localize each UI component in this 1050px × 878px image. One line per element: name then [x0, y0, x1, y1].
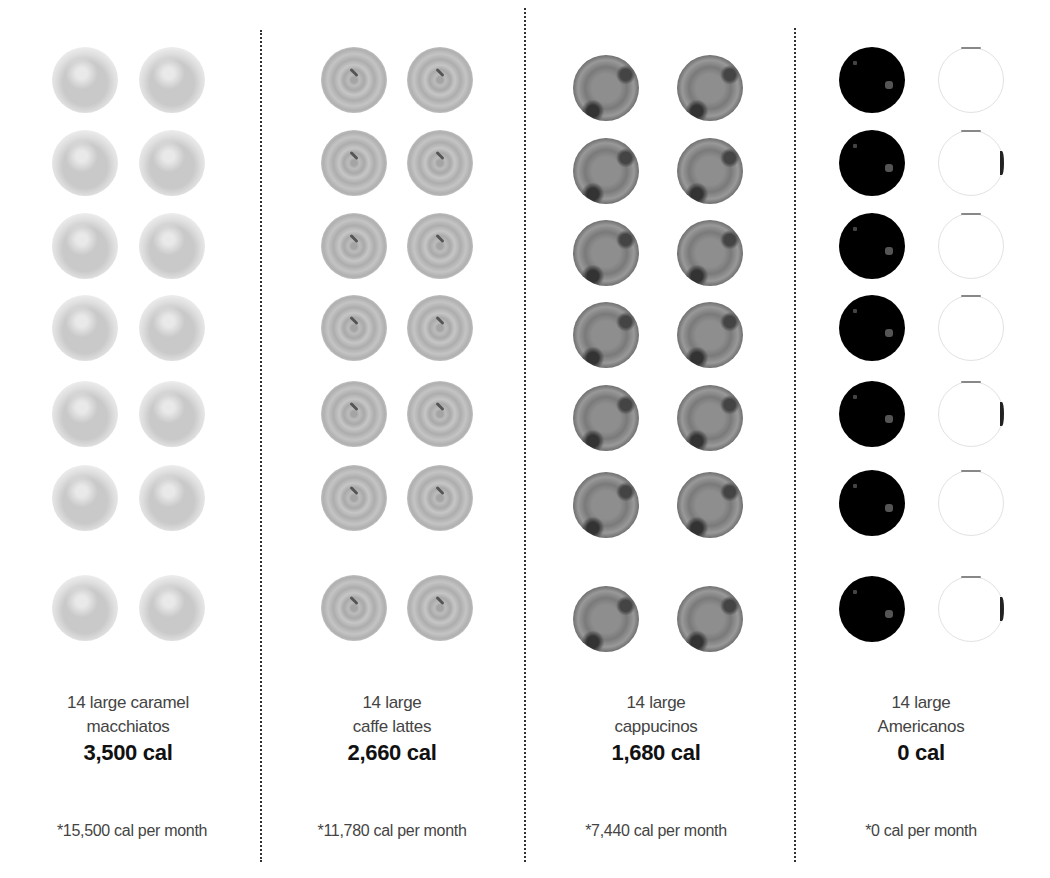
- coffee-cup-icon: [407, 47, 473, 113]
- column-divider-1: [260, 30, 262, 862]
- coffee-cup-icon: [52, 213, 118, 279]
- coffee-cup-icon: [677, 302, 743, 368]
- monthly-calories: *7,440 cal per month: [536, 822, 776, 840]
- coffee-cup-icon: [321, 465, 387, 531]
- empty-cup-icon: [938, 213, 1004, 279]
- drink-label: 14 large caramel macchiatos 3,500 cal: [8, 691, 248, 767]
- coffee-cup-icon: [52, 465, 118, 531]
- coffee-cup-icon: [139, 575, 205, 641]
- coffee-cup-icon: [139, 213, 205, 279]
- coffee-cup-icon: [677, 385, 743, 451]
- coffee-cup-icon: [321, 575, 387, 641]
- coffee-cup-icon: [839, 47, 905, 113]
- calorie-total: 2,660 cal: [272, 739, 512, 767]
- drink-name-text: Americanos: [801, 715, 1041, 739]
- monthly-calories: *11,780 cal per month: [272, 822, 512, 840]
- coffee-cup-icon: [839, 213, 905, 279]
- drink-name-text: caffe lattes: [272, 715, 512, 739]
- drink-label: 14 large Americanos 0 cal: [801, 691, 1041, 767]
- monthly-calories: *0 cal per month: [801, 822, 1041, 840]
- drink-label: 14 large caffe lattes 2,660 cal: [272, 691, 512, 767]
- coffee-cup-icon: [139, 381, 205, 447]
- drink-name-text: cappucinos: [536, 715, 776, 739]
- coffee-cup-icon: [407, 213, 473, 279]
- empty-cup-icon: [938, 130, 1004, 196]
- drink-count-text: 14 large: [536, 691, 776, 715]
- calorie-total: 1,680 cal: [536, 739, 776, 767]
- coffee-cup-icon: [573, 138, 639, 204]
- coffee-cup-icon: [573, 220, 639, 286]
- coffee-cup-icon: [52, 381, 118, 447]
- empty-cup-icon: [938, 381, 1004, 447]
- coffee-cup-icon: [321, 130, 387, 196]
- coffee-cup-icon: [407, 575, 473, 641]
- coffee-cup-icon: [139, 130, 205, 196]
- coffee-cup-icon: [573, 302, 639, 368]
- coffee-cup-icon: [573, 55, 639, 121]
- coffee-cup-icon: [573, 385, 639, 451]
- coffee-cup-icon: [52, 295, 118, 361]
- empty-cup-icon: [938, 295, 1004, 361]
- calorie-total: 3,500 cal: [8, 739, 248, 767]
- coffee-cup-icon: [52, 130, 118, 196]
- coffee-cup-icon: [677, 472, 743, 538]
- coffee-cup-icon: [139, 47, 205, 113]
- coffee-cup-icon: [407, 295, 473, 361]
- drink-count-text: 14 large: [272, 691, 512, 715]
- coffee-cup-icon: [839, 576, 905, 642]
- calorie-total: 0 cal: [801, 739, 1041, 767]
- column-divider-3: [794, 28, 796, 862]
- coffee-cup-icon: [839, 381, 905, 447]
- coffee-cup-icon: [52, 47, 118, 113]
- coffee-cup-icon: [407, 465, 473, 531]
- coffee-cup-icon: [139, 465, 205, 531]
- coffee-cup-icon: [839, 470, 905, 536]
- coffee-cup-icon: [52, 575, 118, 641]
- coffee-cup-icon: [573, 586, 639, 652]
- drink-count-text: 14 large: [801, 691, 1041, 715]
- drink-label: 14 large cappucinos 1,680 cal: [536, 691, 776, 767]
- empty-cup-icon: [938, 470, 1004, 536]
- coffee-cup-icon: [407, 130, 473, 196]
- coffee-cup-icon: [321, 47, 387, 113]
- empty-cup-icon: [938, 576, 1004, 642]
- coffee-cup-icon: [677, 138, 743, 204]
- coffee-cup-icon: [839, 130, 905, 196]
- drink-count-text: 14 large caramel: [8, 691, 248, 715]
- coffee-cup-icon: [573, 472, 639, 538]
- monthly-calories: *15,500 cal per month: [12, 822, 252, 840]
- coffee-cup-icon: [839, 295, 905, 361]
- coffee-cup-icon: [321, 295, 387, 361]
- coffee-cup-icon: [677, 586, 743, 652]
- drink-name-text: macchiatos: [8, 715, 248, 739]
- coffee-cup-icon: [321, 381, 387, 447]
- coffee-cup-icon: [139, 295, 205, 361]
- coffee-cup-icon: [677, 55, 743, 121]
- column-divider-2: [524, 8, 526, 862]
- coffee-cup-icon: [407, 381, 473, 447]
- coffee-cup-icon: [321, 213, 387, 279]
- coffee-cup-icon: [677, 220, 743, 286]
- empty-cup-icon: [938, 47, 1004, 113]
